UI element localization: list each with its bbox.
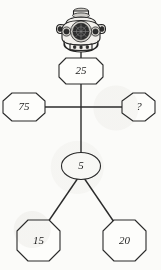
node-15[interactable]: 15 — [17, 220, 60, 261]
diving-helmet-icon — [57, 8, 106, 52]
node-5-label: 5 — [78, 159, 84, 171]
node-25-label: 25 — [76, 64, 88, 76]
puzzle-diagram: 25 75 ? 5 15 20 — [0, 0, 161, 270]
node-20[interactable]: 20 — [103, 220, 146, 261]
node-25[interactable]: 25 — [59, 58, 103, 84]
edge-5-to-20 — [84, 178, 114, 222]
node-20-label: 20 — [119, 234, 131, 246]
node-5[interactable]: 5 — [62, 153, 101, 180]
node-question-label: ? — [136, 100, 142, 112]
node-question[interactable]: ? — [122, 93, 155, 121]
node-75-label: 75 — [19, 100, 31, 112]
node-15-label: 15 — [33, 234, 45, 246]
edge-5-to-15 — [48, 178, 78, 222]
diagram-page: 25 75 ? 5 15 20 — [0, 0, 161, 270]
node-75[interactable]: 75 — [3, 93, 45, 121]
